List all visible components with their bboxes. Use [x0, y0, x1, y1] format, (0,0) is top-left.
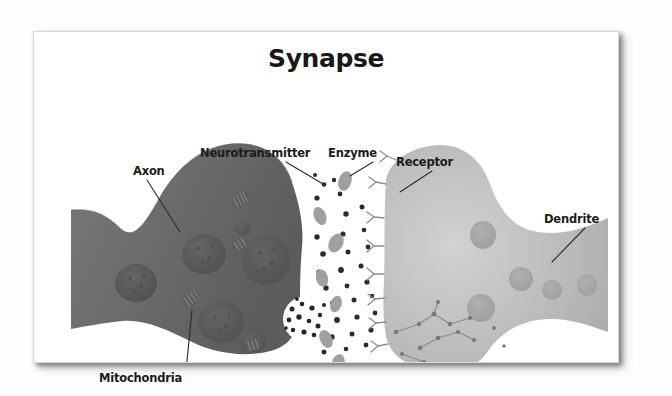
label-neurotransmitter: Neurotransmitter [200, 146, 310, 160]
page-canvas: Synapse [0, 0, 672, 396]
postsynaptic-dendrite [383, 145, 608, 362]
leader-enzyme [350, 162, 373, 176]
label-enzyme: Enzyme [328, 146, 377, 160]
synapse-illustration [34, 32, 618, 362]
label-mitochondria: Mitochondria [99, 371, 182, 385]
diagram-card: Synapse [33, 31, 619, 363]
leader-neurotransmitter-arrow [322, 182, 327, 187]
label-axon: Axon [133, 164, 165, 178]
label-receptor: Receptor [396, 155, 453, 169]
label-dendrite: Dendrite [544, 212, 599, 226]
